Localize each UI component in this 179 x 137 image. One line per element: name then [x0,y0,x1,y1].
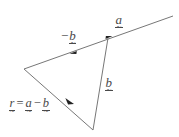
arrowhead-r-icon [65,98,74,105]
label-vector-b: b [105,76,113,91]
equation-operator-sign: − [32,97,42,110]
equation-term2-symbol: b [42,97,49,111]
label-vector-neg-b-symbol: b [69,29,77,44]
label-vector-a-symbol: a [115,13,123,28]
equation-equals-sign: = [15,97,25,110]
label-vector-neg-b-sign: − [61,29,69,42]
label-vector-a: a [115,13,123,28]
label-vector-neg-b: −b [61,29,76,44]
vector-diagram-canvas [0,0,179,137]
equation-term1-symbol: a [25,97,32,111]
equation-lhs-symbol: r [9,97,15,111]
vector-diagram-figure: a −b b r=a−b [0,0,179,137]
label-vector-b-symbol: b [105,76,113,91]
equation-r-equals-a-minus-b: r=a−b [9,97,50,111]
line-a-negb [24,16,173,69]
